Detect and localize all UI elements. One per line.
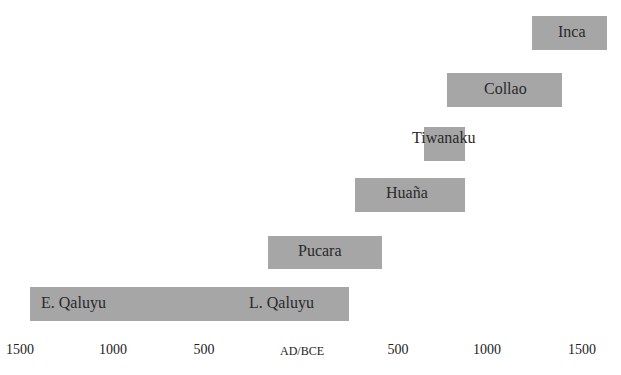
axis-tick-1500-bce: 1500 xyxy=(6,343,34,357)
period-label-early-qaluyu: E. Qaluyu xyxy=(41,295,106,311)
period-label-tiwanaku: Tiwanaku xyxy=(412,130,475,146)
period-label-pucara: Pucara xyxy=(298,243,342,259)
axis-tick-1000-ad: 1000 xyxy=(473,343,501,357)
period-label-late-qaluyu: L. Qaluyu xyxy=(249,295,314,311)
axis-tick-500-bce: 500 xyxy=(194,343,215,357)
period-label-collao: Collao xyxy=(484,81,527,97)
axis-tick-ad-bce: AD/BCE xyxy=(280,345,324,357)
timeline-chart: Inca Collao Tiwanaku Huaña Pucara E. Qal… xyxy=(0,0,621,375)
period-label-inca: Inca xyxy=(558,24,586,40)
period-label-huana: Huaña xyxy=(386,185,428,201)
axis-tick-500-ad: 500 xyxy=(388,343,409,357)
axis-tick-1500-ad: 1500 xyxy=(568,343,596,357)
axis-tick-1000-bce: 1000 xyxy=(99,343,127,357)
